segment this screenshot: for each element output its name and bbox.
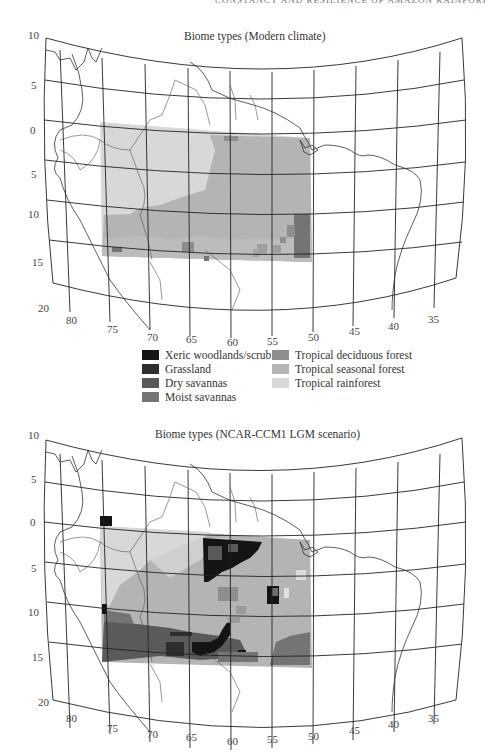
- lon-label: 65: [186, 731, 197, 743]
- legend-item-seasonal: Tropical seasonal forest: [272, 362, 404, 375]
- biome-raster: [100, 122, 312, 262]
- lon-label: 35: [428, 313, 439, 325]
- legend-item-rainforest: Tropical rainforest: [272, 376, 381, 389]
- lat-label: 0: [30, 516, 36, 528]
- lon-label: 45: [349, 325, 360, 337]
- lat-label: 0: [30, 124, 36, 136]
- map-title-lgm: Biome types (NCAR-CCM1 LGM scenario): [155, 428, 360, 440]
- lon-label: 55: [267, 335, 278, 347]
- swatch-deciduous: [272, 350, 289, 360]
- lon-label: 60: [227, 735, 238, 747]
- lon-label: 40: [388, 718, 399, 730]
- lat-label: 5: [31, 168, 37, 180]
- lon-label: 45: [349, 724, 360, 736]
- lon-label: 55: [267, 733, 278, 745]
- lon-label: 75: [107, 722, 118, 734]
- swatch-xeric: [142, 350, 159, 360]
- legend-item-dry-savannas: Dry savannas: [142, 376, 227, 389]
- lat-label: 15: [32, 256, 43, 268]
- map-title-modern: Biome types (Modern climate): [184, 30, 325, 42]
- swatch-grassland: [142, 364, 159, 374]
- lat-label: 5: [31, 79, 37, 91]
- lon-label: 35: [428, 712, 439, 724]
- legend-item-deciduous: Tropical deciduous forest: [272, 348, 412, 361]
- legend-label: Moist savannas: [165, 391, 236, 403]
- map-panel-lgm: Biome types (NCAR-CCM1 LGM scenario) 10 …: [0, 410, 489, 755]
- map-lgm: [0, 410, 489, 755]
- lon-label: 60: [227, 336, 238, 348]
- legend: Xeric woodlands/scrub Grassland Dry sava…: [136, 348, 396, 408]
- legend-label: Xeric woodlands/scrub: [165, 349, 271, 361]
- legend-item-grassland: Grassland: [142, 362, 211, 375]
- legend-label: Tropical rainforest: [295, 377, 381, 389]
- lat-label: 20: [38, 302, 49, 314]
- lat-label: 20: [38, 696, 49, 708]
- lon-label: 40: [388, 320, 399, 332]
- legend-item-moist-savannas: Moist savannas: [142, 390, 236, 403]
- lat-label: 10: [28, 29, 39, 41]
- lon-label: 75: [107, 323, 118, 335]
- map-modern: [0, 0, 489, 345]
- legend-label: Tropical seasonal forest: [295, 363, 404, 375]
- swatch-moist-savannas: [142, 392, 159, 402]
- lat-label: 10: [28, 429, 39, 441]
- lon-label: 65: [186, 333, 197, 345]
- lat-label: 10: [28, 208, 39, 220]
- swatch-rainforest: [272, 378, 289, 388]
- lat-label: 5: [31, 473, 37, 485]
- lon-label: 70: [147, 331, 158, 343]
- lon-label: 50: [308, 331, 319, 343]
- map-panel-modern: Biome types (Modern climate) 10 5 0 5 10…: [0, 0, 489, 345]
- legend-label: Tropical deciduous forest: [295, 349, 412, 361]
- lon-label: 80: [66, 314, 77, 326]
- lat-label: 15: [32, 651, 43, 663]
- lat-label: 5: [31, 562, 37, 574]
- legend-label: Dry savannas: [165, 377, 227, 389]
- lon-label: 50: [308, 730, 319, 742]
- biome-raster: [100, 516, 312, 668]
- swatch-seasonal: [272, 364, 289, 374]
- lon-label: 80: [66, 712, 77, 724]
- lon-label: 70: [147, 728, 158, 740]
- lat-label: 10: [28, 606, 39, 618]
- legend-label: Grassland: [165, 363, 211, 375]
- legend-item-xeric: Xeric woodlands/scrub: [142, 348, 271, 361]
- swatch-dry-savannas: [142, 378, 159, 388]
